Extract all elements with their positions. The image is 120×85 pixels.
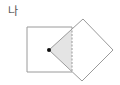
geometry-figure (0, 0, 120, 85)
center-dot (47, 48, 51, 52)
overlap-region (49, 29, 72, 71)
